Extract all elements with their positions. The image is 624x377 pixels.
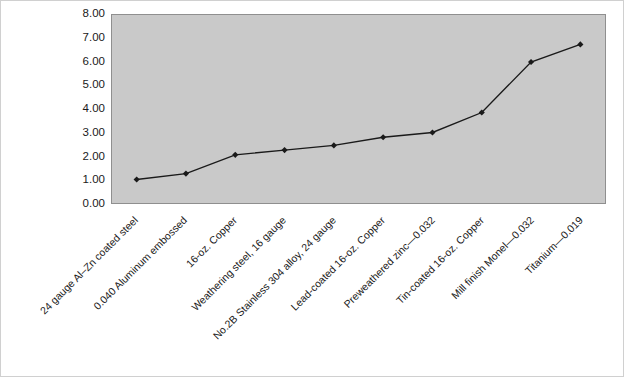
y-tick-label: 2.00 <box>1 151 105 163</box>
plot-area <box>111 14 606 204</box>
x-tick-label-text: Preweathered zinc—0.032 <box>342 215 437 310</box>
x-tick-label-text: 24 gauge Al–Zn coated steel <box>38 215 140 317</box>
data-point-marker[interactable] <box>232 152 238 158</box>
y-tick-label: 6.00 <box>1 56 105 68</box>
data-point-marker[interactable] <box>281 147 287 153</box>
data-point-marker[interactable] <box>183 171 189 177</box>
x-tick-label-text: Tin-coated 16-oz. Copper <box>395 215 486 306</box>
y-tick-label: 3.00 <box>1 127 105 139</box>
y-tick-label: 0.00 <box>1 198 105 210</box>
y-tick-label: 1.00 <box>1 175 105 187</box>
data-point-marker[interactable] <box>380 134 386 140</box>
series-line <box>137 44 581 179</box>
data-point-marker[interactable] <box>577 41 583 47</box>
data-point-marker[interactable] <box>429 129 435 135</box>
line-series-svg <box>112 15 605 203</box>
x-tick-label: 24 gauge Al–Zn coated steel <box>0 215 139 377</box>
y-axis: 8.007.006.005.004.003.002.001.000.00 <box>1 14 105 204</box>
chart-figure: 8.007.006.005.004.003.002.001.000.00 24 … <box>0 0 624 377</box>
x-tick-label-text: Lead-coated 16-oz. Copper <box>289 215 387 313</box>
y-tick-label: 7.00 <box>1 32 105 44</box>
y-tick-label: 4.00 <box>1 103 105 115</box>
x-tick-label-text: 16-oz. Copper <box>184 215 238 269</box>
x-tick-label-text: 0.040 Aluminum embossed <box>92 215 189 312</box>
y-tick-label: 8.00 <box>1 8 105 20</box>
x-tick-label-text: Weathering steel, 16 gauge <box>190 215 288 313</box>
data-point-marker[interactable] <box>331 142 337 148</box>
y-tick-label: 5.00 <box>1 80 105 92</box>
data-point-marker[interactable] <box>134 176 140 182</box>
